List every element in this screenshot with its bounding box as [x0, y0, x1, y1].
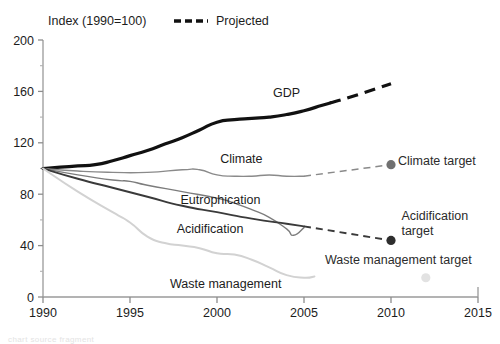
target-marker-acidification: [386, 236, 395, 245]
x-tick-label: 2010: [377, 306, 405, 320]
x-tick-label: 1995: [116, 306, 144, 320]
footer-ghost-text: chart source fragment: [8, 335, 94, 344]
line-chart: 04080120160200199019952000200520102015In…: [0, 0, 500, 344]
x-tick-label: 1990: [29, 306, 57, 320]
series-label-acidification: Acidification: [177, 222, 244, 236]
annotation-0: Climate target: [398, 154, 476, 168]
annotation-1: Acidification: [401, 209, 468, 223]
annotation-2: target: [401, 224, 433, 238]
y-tick-label: 40: [20, 239, 34, 253]
series-label-waste-management: Waste management: [170, 277, 282, 291]
y-tick-label: 0: [27, 291, 34, 305]
y-tick-label: 200: [13, 34, 34, 48]
series-projection-acidification: [304, 226, 391, 240]
series-projection-climate: [304, 165, 391, 177]
series-line-eutrophication: [43, 169, 304, 236]
series-label-climate: Climate: [220, 152, 262, 166]
y-tick-label: 80: [20, 188, 34, 202]
series-label-eutrophication: Eutrophication: [181, 193, 261, 207]
y-tick-label: 120: [13, 136, 34, 150]
series-line-gdp: [43, 103, 330, 169]
x-tick-label: 2015: [464, 306, 492, 320]
annotation-3: Waste management target: [325, 253, 472, 267]
target-marker-climate: [386, 160, 395, 169]
series-label-gdp: GDP: [273, 86, 300, 100]
y-tick-label: 160: [13, 85, 34, 99]
series-line-acidification: [43, 169, 304, 227]
target-marker-waste-management: [421, 273, 430, 282]
series-projection-gdp: [330, 84, 391, 103]
legend-projected-label: Projected: [216, 14, 269, 28]
y-axis-title: Index (1990=100): [48, 14, 146, 28]
x-tick-label: 2000: [203, 306, 231, 320]
x-tick-label: 2005: [290, 306, 318, 320]
chart-container: 04080120160200199019952000200520102015In…: [0, 0, 500, 344]
